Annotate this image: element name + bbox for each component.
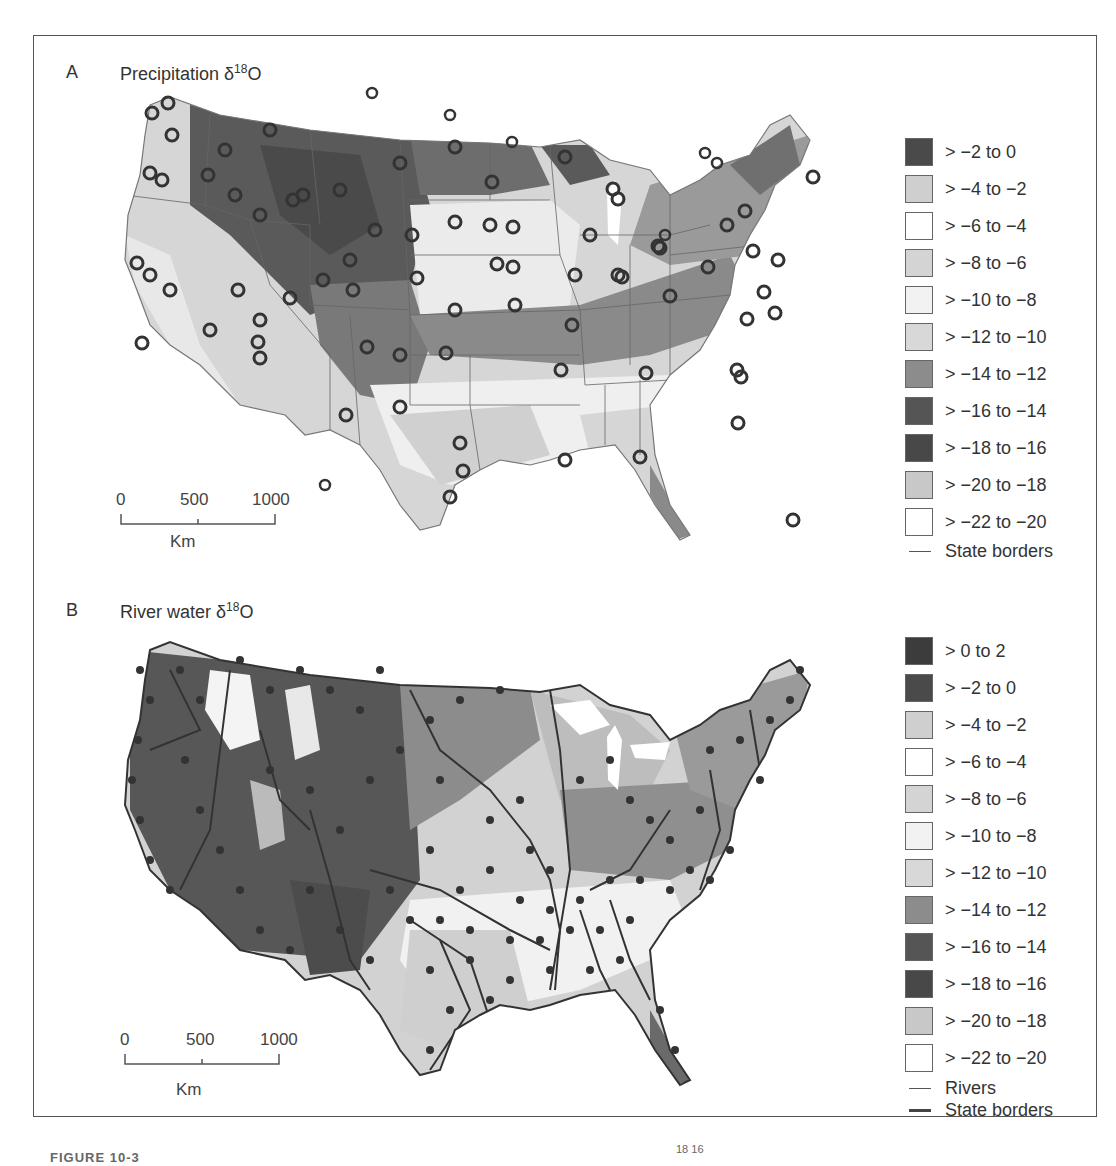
legend-item: > −12 to −10	[905, 858, 1047, 888]
legend-item-state-borders: State borders	[905, 1095, 1053, 1125]
legend-swatch	[905, 1044, 933, 1072]
legend-swatch	[905, 637, 933, 665]
legend-item: > −20 to −18	[905, 1006, 1047, 1036]
line-symbol	[909, 1109, 931, 1112]
river-water-map	[110, 630, 830, 1090]
legend-item: > −22 to −20	[905, 1043, 1047, 1073]
legend-swatch	[905, 1007, 933, 1035]
legend-swatch	[905, 674, 933, 702]
panel-title: River water δ18O	[120, 600, 253, 623]
scalebar: 0 500 1000 Km	[120, 1030, 300, 1100]
legend-swatch	[905, 859, 933, 887]
legend-item: > −8 to −6	[905, 784, 1027, 814]
panel-letter: B	[66, 600, 78, 621]
legend-item: > −10 to −8	[905, 821, 1037, 851]
legend-item: > −2 to 0	[905, 673, 1016, 703]
legend-item: > −14 to −12	[905, 895, 1047, 925]
legend-item: > −18 to −16	[905, 969, 1047, 999]
legend-item: > 0 to 2	[905, 636, 1006, 666]
line-symbol	[909, 1088, 931, 1089]
legend-item: > −4 to −2	[905, 710, 1027, 740]
legend-swatch	[905, 896, 933, 924]
panel-b: B River water δ18O	[0, 0, 1116, 1120]
legend-item: > −6 to −4	[905, 747, 1027, 777]
legend-swatch	[905, 711, 933, 739]
figure-caption: FIGURE 10-3	[50, 1150, 140, 1165]
legend-item: > −16 to −14	[905, 932, 1047, 962]
legend-swatch	[905, 748, 933, 776]
legend-swatch	[905, 970, 933, 998]
legend-swatch	[905, 933, 933, 961]
caption-superscript: 18 16	[676, 1143, 704, 1155]
legend-swatch	[905, 822, 933, 850]
legend-swatch	[905, 785, 933, 813]
